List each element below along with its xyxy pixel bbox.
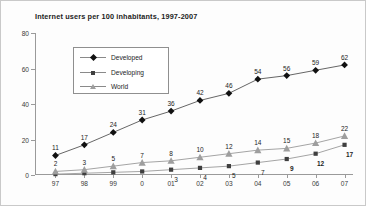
x-axis-tick-label: 0 <box>140 180 144 187</box>
data-point-marker <box>341 132 348 139</box>
data-point-label: 11 <box>52 144 59 151</box>
legend-item-developed[interactable]: Developed <box>80 51 143 64</box>
data-point-marker <box>169 168 173 172</box>
data-point-marker <box>81 141 88 148</box>
data-point-marker <box>111 170 115 174</box>
x-axis-tick-label: 97 <box>52 180 59 187</box>
x-axis-tick-label: 05 <box>283 180 290 187</box>
x-axis-tick <box>84 175 85 178</box>
data-point-label: 17 <box>346 151 353 158</box>
x-axis-tick <box>142 175 143 178</box>
legend-item-developing[interactable]: Developing <box>80 66 144 79</box>
chart-title: Internet users per 100 inhabitants, 1997… <box>35 12 198 21</box>
diamond-marker-icon <box>80 57 106 58</box>
x-axis-tick <box>113 175 114 178</box>
data-point-marker <box>197 97 204 104</box>
data-point-marker <box>52 152 59 159</box>
data-point-label: 12 <box>225 143 232 150</box>
x-axis-tick-label: 03 <box>225 180 232 187</box>
data-point-label: 42 <box>196 89 203 96</box>
x-axis-tick-label: 02 <box>196 180 203 187</box>
data-point-marker <box>226 90 233 97</box>
x-axis-tick <box>345 175 346 178</box>
data-point-marker <box>140 169 144 173</box>
data-point-marker <box>198 166 202 170</box>
data-point-label: 22 <box>341 125 348 132</box>
data-point-marker <box>139 117 146 124</box>
data-point-marker <box>227 164 231 168</box>
triangle-marker-icon <box>80 86 106 87</box>
data-point-label: 56 <box>283 65 290 72</box>
data-point-label: 59 <box>312 59 319 66</box>
data-point-marker <box>110 129 117 136</box>
square-marker-icon <box>80 72 106 73</box>
x-axis-tick <box>229 175 230 178</box>
x-axis-tick <box>171 175 172 178</box>
x-axis-tick-label: 99 <box>110 180 117 187</box>
x-axis-tick-label: 07 <box>341 180 348 187</box>
x-axis-tick-label: 98 <box>81 180 88 187</box>
data-point-label: 4 <box>203 174 207 181</box>
data-point-marker <box>285 157 289 161</box>
data-point-label: 62 <box>341 54 348 61</box>
legend-label-world: World <box>111 83 128 90</box>
data-point-label: 9 <box>290 165 294 172</box>
data-point-label: 2 <box>54 160 58 167</box>
y-axis-tick-label: 60 <box>22 65 29 72</box>
data-point-label: 46 <box>225 82 232 89</box>
data-point-marker <box>341 62 348 69</box>
x-axis-tick-label: 04 <box>254 180 261 187</box>
legend-item-world[interactable]: World <box>80 80 128 93</box>
data-point-label: 31 <box>139 109 146 116</box>
x-axis-tick <box>316 175 317 178</box>
data-point-label: 14 <box>254 139 261 146</box>
data-point-marker <box>314 152 318 156</box>
data-point-label: 5 <box>111 155 115 162</box>
data-point-label: 36 <box>167 100 174 107</box>
data-point-label: 10 <box>196 146 203 153</box>
chart-legend: Developed Developing World <box>73 47 169 94</box>
y-axis-tick-label: 20 <box>22 136 29 143</box>
data-point-label: 17 <box>81 134 88 141</box>
x-axis-tick-label: 06 <box>312 180 319 187</box>
data-point-label: 54 <box>254 68 261 75</box>
data-point-label: 18 <box>312 132 319 139</box>
data-point-label: 3 <box>174 176 178 183</box>
data-point-marker <box>254 76 261 83</box>
data-point-marker <box>256 160 260 164</box>
data-point-label: 5 <box>232 172 236 179</box>
data-point-label: 15 <box>283 137 290 144</box>
data-point-label: 8 <box>169 150 173 157</box>
x-axis-tick <box>258 175 259 178</box>
data-point-marker <box>168 108 175 115</box>
x-axis-tick <box>200 175 201 178</box>
legend-label-developed: Developed <box>111 54 143 61</box>
chart-frame: Internet users per 100 inhabitants, 1997… <box>0 0 366 206</box>
data-point-label: 12 <box>317 160 324 167</box>
y-axis-tick <box>31 175 35 176</box>
y-axis-tick-label: 0 <box>25 172 29 179</box>
data-point-label: 24 <box>110 121 117 128</box>
data-point-marker <box>312 67 319 74</box>
data-point-label: 3 <box>83 159 87 166</box>
y-axis-tick-label: 40 <box>22 101 29 108</box>
data-point-marker <box>342 143 346 147</box>
x-axis-tick <box>287 175 288 178</box>
legend-label-developing: Developing <box>111 69 144 76</box>
data-point-label: 7 <box>140 152 144 159</box>
data-point-marker <box>283 72 290 79</box>
data-point-label: 7 <box>261 169 265 176</box>
y-axis-tick-label: 80 <box>22 30 29 37</box>
